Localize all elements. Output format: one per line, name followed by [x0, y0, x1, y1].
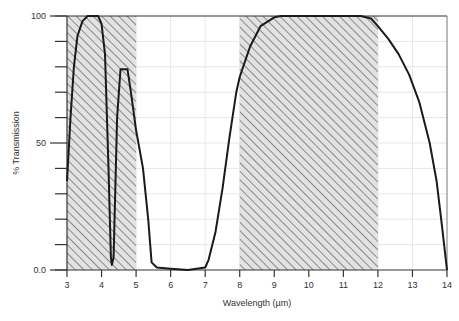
transmission-chart: 34567891011121314 100500.0 Wavelength (µ… [0, 0, 459, 321]
x-tick-label: 7 [203, 280, 208, 290]
x-tick-label: 6 [168, 280, 173, 290]
x-tick-label: 14 [442, 280, 452, 290]
x-tick-label: 5 [134, 280, 139, 290]
y-axis-ticks: 100500.0 [31, 11, 67, 275]
x-tick-label: 12 [373, 280, 383, 290]
y-axis-label: % Transmission [11, 111, 21, 175]
x-tick-label: 13 [407, 280, 417, 290]
y-tick-label: 50 [36, 138, 46, 148]
hatched-window-region [240, 16, 378, 270]
y-tick-label: 0.0 [33, 265, 46, 275]
x-tick-label: 3 [64, 280, 69, 290]
x-tick-label: 11 [339, 280, 348, 290]
y-tick-label: 100 [31, 11, 46, 21]
hatched-window-region [67, 16, 136, 270]
x-tick-label: 4 [99, 280, 104, 290]
x-tick-label: 9 [272, 280, 277, 290]
x-tick-label: 8 [237, 280, 242, 290]
x-tick-label: 10 [304, 280, 314, 290]
x-axis-label: Wavelength (µm) [223, 298, 291, 308]
x-axis-ticks: 34567891011121314 [64, 270, 452, 290]
